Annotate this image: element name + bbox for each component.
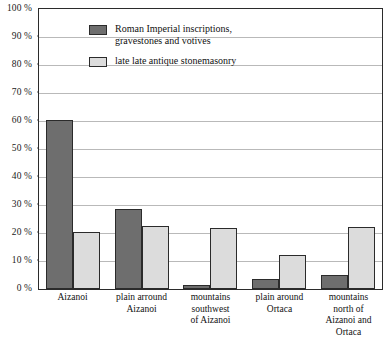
bar (46, 120, 73, 289)
legend-swatch-icon (89, 57, 107, 67)
x-axis-tick-label: plain arround Aizanoi (107, 292, 176, 338)
bar (73, 232, 100, 289)
bar (183, 285, 210, 289)
x-axis-labels: Aizanoiplain arround Aizanoimountains so… (38, 292, 383, 338)
bar-group (313, 9, 382, 289)
bar (210, 228, 237, 289)
legend-item: late late antique stonemasonry (89, 55, 236, 67)
y-axis-tick-label: 0 % (17, 283, 32, 293)
legend-item-label: Roman Imperial inscriptions, gravestones… (115, 23, 232, 46)
x-axis-tick-label: mountains north of Aizanoi and Ortaca (314, 292, 383, 338)
y-axis: 100 %90 %80 %70 %60 %50 %40 %30 %20 %10 … (0, 0, 37, 290)
x-axis-tick-label: plain around Ortaca (245, 292, 314, 338)
y-axis-tick-label: 90 % (12, 31, 32, 41)
legend-item: Roman Imperial inscriptions, gravestones… (89, 23, 236, 46)
legend-item-label: late late antique stonemasonry (115, 55, 236, 67)
y-axis-tick-label: 10 % (12, 255, 32, 265)
plot-area: Roman Imperial inscriptions, gravestones… (38, 8, 383, 290)
x-axis-tick-label: mountains southwest of Aizanoi (176, 292, 245, 338)
legend: Roman Imperial inscriptions, gravestones… (89, 23, 236, 76)
y-axis-tick-label: 50 % (12, 143, 32, 153)
x-axis-tick-label: Aizanoi (38, 292, 107, 338)
y-axis-tick-label: 80 % (12, 59, 32, 69)
bar (348, 227, 375, 289)
bar-chart: 100 %90 %80 %70 %60 %50 %40 %30 %20 %10 … (0, 0, 386, 347)
y-axis-tick-label: 40 % (12, 171, 32, 181)
y-axis-tick-label: 30 % (12, 199, 32, 209)
y-axis-tick-label: 70 % (12, 87, 32, 97)
bar (142, 226, 169, 289)
bar (321, 275, 348, 289)
y-axis-tick-label: 60 % (12, 115, 32, 125)
y-axis-tick-label: 100 % (7, 3, 32, 13)
bar (252, 279, 279, 289)
bar (115, 209, 142, 289)
bar-group (245, 9, 314, 289)
y-axis-tick-label: 20 % (12, 227, 32, 237)
legend-swatch-icon (89, 25, 107, 35)
bar (279, 255, 306, 289)
